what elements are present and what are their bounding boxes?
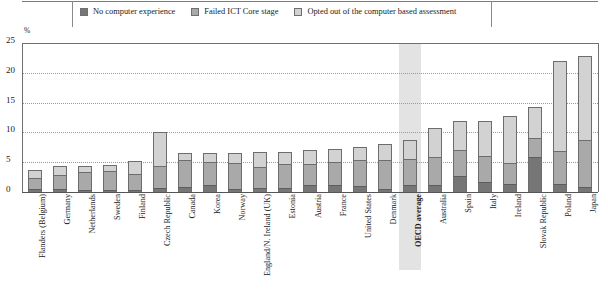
legend-item-failed-ict-core-stage: Failed ICT Core stage (191, 7, 278, 17)
bar-column (528, 107, 542, 192)
bar-column (53, 166, 67, 192)
y-axis-unit-label: % (24, 26, 30, 35)
segment-no-computer-experience (553, 184, 567, 192)
segment-opted-out (53, 166, 67, 175)
bar-column (303, 150, 317, 192)
segment-failed-ict-core (503, 163, 517, 184)
segment-failed-ict-core (453, 150, 467, 176)
segment-opted-out (553, 61, 567, 152)
chart-legend: No computer experience Failed ICT Core s… (0, 0, 608, 28)
category-label: Japan (589, 194, 598, 213)
segment-failed-ict-core (428, 157, 442, 185)
segment-failed-ict-core (178, 160, 192, 186)
bar-column (428, 128, 442, 192)
segment-opted-out (378, 144, 392, 161)
category-label: Flanders (Belgium) (38, 194, 47, 258)
legend-item-no-computer-experience: No computer experience (80, 7, 175, 17)
segment-failed-ict-core (153, 166, 167, 189)
category-label: England/N. Ireland (UK) (263, 194, 272, 276)
category-label: Sweden (113, 194, 122, 220)
y-axis-tick-label: 20 (6, 66, 22, 75)
segment-no-computer-experience (128, 190, 142, 192)
segment-no-computer-experience (428, 185, 442, 192)
category-label: Denmark (389, 194, 398, 224)
bar-column (453, 121, 467, 193)
segment-failed-ict-core (528, 138, 542, 157)
segment-failed-ict-core (203, 162, 217, 186)
segment-no-computer-experience (503, 184, 517, 192)
bar-column (553, 61, 567, 192)
category-label: Slovak Republic (539, 194, 548, 248)
category-label: Austria (314, 194, 323, 218)
category-label: Netherlands (88, 194, 97, 234)
segment-no-computer-experience (153, 188, 167, 192)
legend-swatch-icon (80, 8, 88, 16)
segment-no-computer-experience (403, 185, 417, 192)
segment-opted-out (353, 147, 367, 160)
category-label: Czech Republic (163, 194, 172, 246)
segment-opted-out (128, 161, 142, 174)
legend-item-opted-out: Opted out of the computer based assessme… (294, 7, 456, 17)
bar-column (178, 153, 192, 192)
bar-column (28, 170, 42, 192)
bar-column (228, 153, 242, 192)
y-axis-tick-label: 5 (6, 155, 22, 164)
bars-host (22, 43, 598, 192)
category-label: Estonia (288, 194, 297, 219)
segment-opted-out (253, 152, 267, 167)
segment-no-computer-experience (228, 189, 242, 192)
segment-no-computer-experience (303, 185, 317, 192)
category-label: Spain (464, 194, 473, 213)
bar-column (203, 153, 217, 192)
category-label: United States (364, 194, 373, 238)
segment-no-computer-experience (203, 185, 217, 192)
segment-no-computer-experience (528, 157, 542, 192)
segment-no-computer-experience (578, 187, 592, 192)
segment-no-computer-experience (353, 186, 367, 192)
segment-no-computer-experience (53, 189, 67, 192)
segment-failed-ict-core (278, 164, 292, 188)
segment-no-computer-experience (253, 188, 267, 192)
segment-failed-ict-core (378, 160, 392, 189)
segment-failed-ict-core (303, 164, 317, 185)
segment-no-computer-experience (453, 176, 467, 192)
bar-column (78, 166, 92, 192)
segment-failed-ict-core (553, 151, 567, 183)
segment-no-computer-experience (378, 189, 392, 192)
y-axis-tick-label: 10 (6, 125, 22, 134)
segment-failed-ict-core (353, 160, 367, 186)
segment-failed-ict-core (478, 156, 492, 182)
segment-failed-ict-core (78, 172, 92, 190)
category-label: Australia (439, 194, 448, 224)
bar-column (578, 56, 592, 192)
legend-swatch-icon (294, 8, 302, 16)
category-label: Germany (63, 194, 72, 224)
category-label: Norway (238, 194, 247, 220)
segment-opted-out (528, 107, 542, 138)
plot-frame-right (598, 43, 599, 192)
y-axis-tick-label: 25 (6, 36, 22, 45)
category-label: Finland (138, 194, 147, 219)
category-label: Italy (489, 194, 498, 209)
segment-no-computer-experience (28, 189, 42, 192)
segment-failed-ict-core (53, 175, 67, 189)
segment-no-computer-experience (478, 182, 492, 192)
category-label: Korea (213, 194, 222, 214)
segment-failed-ict-core (103, 171, 117, 189)
segment-opted-out (578, 56, 592, 140)
segment-opted-out (478, 121, 492, 156)
segment-opted-out (228, 153, 242, 163)
bar-column (478, 121, 492, 193)
segment-opted-out (403, 140, 417, 159)
legend-swatch-icon (191, 8, 199, 16)
bar-column (253, 152, 267, 192)
segment-opted-out (178, 153, 192, 160)
bar-column (378, 144, 392, 192)
segment-opted-out (453, 121, 467, 151)
legend-label: Failed ICT Core stage (204, 7, 278, 17)
legend-label: No computer experience (93, 7, 175, 17)
bar-column (503, 116, 517, 192)
segment-no-computer-experience (103, 190, 117, 192)
bar-column (278, 152, 292, 192)
segment-opted-out (278, 152, 292, 164)
